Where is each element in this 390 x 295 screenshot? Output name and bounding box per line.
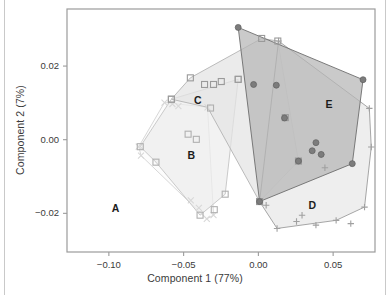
group-label-b: B [188,149,196,161]
data-point-marker [295,158,301,164]
data-point-marker [313,140,319,146]
y-tick-label: 0.00 [9,134,59,145]
data-point-marker [348,220,354,226]
y-tick-label: −0.02 [9,207,59,218]
figure-container: ABCDE Component 1 (77%) Component 2 (7%)… [0,0,390,295]
x-tick-label: −0.05 [159,259,209,270]
data-point-marker [309,148,315,154]
convex-hulls-layer [139,27,371,228]
data-point-marker [318,151,324,157]
scatter-plot-svg: ABCDE [0,0,390,295]
page-left-edge [4,0,5,295]
data-point-marker [235,24,241,30]
group-label-c: C [194,94,202,106]
x-axis-title: Component 1 (77%) [0,272,390,284]
group-label-d: D [308,199,316,211]
page-right-edge [385,0,386,295]
data-point-marker [251,81,257,87]
group-label-e: E [325,98,332,110]
data-point-marker [360,77,366,83]
y-tick-label: 0.02 [9,60,59,71]
data-point-marker [273,82,279,88]
x-tick-label: 0.00 [233,259,283,270]
x-tick-label: 0.05 [308,259,358,270]
data-point-marker [257,199,263,205]
group-label-a: A [112,202,120,214]
data-point-marker [282,115,288,121]
x-tick-label: −0.10 [84,259,134,270]
data-point-marker [349,161,355,167]
